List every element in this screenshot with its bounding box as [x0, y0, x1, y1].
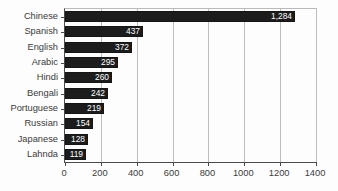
- x-tick-label-200: 200: [92, 168, 108, 179]
- bar-row: 295: [65, 57, 316, 68]
- x-tick-mark-800: [208, 162, 209, 166]
- bar-value-label: 219: [65, 103, 104, 114]
- y-tick-mark: [61, 78, 65, 79]
- y-tick-mark: [61, 17, 65, 18]
- bar-value-label: 295: [65, 57, 118, 68]
- bar-value-label: 260: [65, 72, 112, 83]
- bar-row: 219: [65, 103, 316, 114]
- y-axis-label-portuguese: Portuguese: [0, 103, 58, 113]
- y-tick-mark: [61, 94, 65, 95]
- y-axis-label-chinese: Chinese: [0, 11, 58, 21]
- bar-value-label: 154: [65, 118, 93, 129]
- x-tick-label-1200: 1200: [269, 168, 290, 179]
- y-axis-label-japanese: Japanese: [0, 134, 58, 144]
- y-tick-mark: [61, 155, 65, 156]
- y-axis-label-hindi: Hindi: [0, 72, 58, 82]
- x-tick-label-600: 600: [164, 168, 180, 179]
- bar-row: 437: [65, 26, 316, 37]
- x-tick-mark-400: [137, 162, 138, 166]
- y-tick-mark: [61, 109, 65, 110]
- y-axis-label-arabic: Arabic: [0, 57, 58, 67]
- bar-row: 242: [65, 88, 316, 99]
- y-tick-mark: [61, 32, 65, 33]
- bar-value-label: 128: [65, 134, 88, 145]
- x-tick-mark-0: [65, 162, 66, 166]
- y-tick-mark: [61, 124, 65, 125]
- bar-row: 372: [65, 42, 316, 53]
- x-tick-mark-600: [173, 162, 174, 166]
- bar-row: 128: [65, 134, 316, 145]
- x-tick-mark-1400: [316, 162, 317, 166]
- bar-value-label: 119: [65, 149, 86, 160]
- y-axis-category-labels: ChineseSpanishEnglishArabicHindiBengaliP…: [0, 0, 58, 161]
- bar-row: 119: [65, 149, 316, 160]
- plot-area: 1,284437372295260242219154128119: [64, 8, 317, 163]
- x-tick-mark-1200: [280, 162, 281, 166]
- bar-value-label: 242: [65, 88, 108, 99]
- x-axis-tick-labels: 0200400600800100012001400: [0, 168, 338, 182]
- x-tick-label-0: 0: [61, 168, 66, 179]
- bar-row: 260: [65, 72, 316, 83]
- bar-value-label: 372: [65, 42, 132, 53]
- bar-value-label: 1,284: [65, 11, 295, 22]
- gridline-1400: [316, 9, 317, 162]
- x-tick-label-400: 400: [128, 168, 144, 179]
- bar-chart: ChineseSpanishEnglishArabicHindiBengaliP…: [0, 0, 338, 191]
- x-tick-label-1000: 1000: [233, 168, 254, 179]
- y-axis-label-lahnda: Lahnda: [0, 149, 58, 159]
- y-tick-mark: [61, 140, 65, 141]
- x-tick-mark-200: [101, 162, 102, 166]
- bar-row: 1,284: [65, 11, 316, 22]
- y-tick-mark: [61, 48, 65, 49]
- y-axis-label-spanish: Spanish: [0, 26, 58, 36]
- bar-row: 154: [65, 118, 316, 129]
- x-tick-label-1400: 1400: [305, 168, 326, 179]
- y-axis-label-russian: Russian: [0, 118, 58, 128]
- bar-value-label: 437: [65, 26, 143, 37]
- x-tick-label-800: 800: [200, 168, 216, 179]
- x-tick-mark-1000: [244, 162, 245, 166]
- y-axis-label-bengali: Bengali: [0, 88, 58, 98]
- y-tick-mark: [61, 63, 65, 64]
- y-axis-label-english: English: [0, 42, 58, 52]
